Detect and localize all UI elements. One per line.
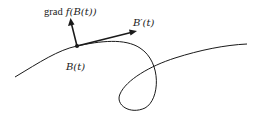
curve-path xyxy=(15,41,247,110)
gradient-function: f(B(t)) xyxy=(66,6,97,17)
gradient-vector xyxy=(68,18,77,46)
gradient-arrowhead-icon xyxy=(68,18,75,26)
point-marker xyxy=(75,44,79,48)
gradient-label: grad f(B(t)) xyxy=(44,7,97,18)
gradient-word: grad xyxy=(44,6,63,17)
diagram-canvas xyxy=(0,0,259,122)
tangent-arrowhead-icon xyxy=(129,30,137,36)
point-label: B(t) xyxy=(66,62,85,72)
tangent-label: B′(t) xyxy=(133,18,154,28)
